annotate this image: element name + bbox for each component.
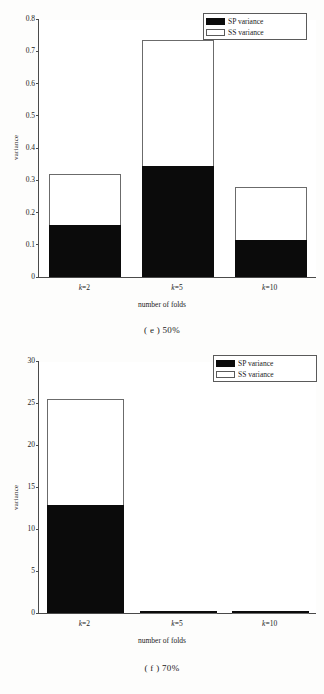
y-tick-mark bbox=[36, 115, 39, 116]
y-tick-mark bbox=[36, 613, 39, 614]
figure-caption-e: ( e ) 50% bbox=[0, 325, 324, 335]
y-tick-mark bbox=[36, 445, 39, 446]
y-tick-label: 5 bbox=[31, 566, 35, 575]
y-tick-mark bbox=[36, 487, 39, 488]
bar-segment-sp[interactable] bbox=[49, 225, 121, 277]
y-tick-label: 10 bbox=[28, 524, 36, 533]
bar-k=10[interactable] bbox=[235, 187, 307, 277]
x-tick-label: k=5 bbox=[153, 283, 201, 292]
x-tick-label: k=10 bbox=[246, 283, 294, 292]
x-axis-label-f: number of folds bbox=[0, 636, 324, 645]
legend-swatch-sp-icon bbox=[216, 360, 235, 367]
bar-k=5[interactable] bbox=[140, 612, 217, 613]
legend-swatch-sp-icon bbox=[206, 18, 225, 25]
y-axis-label-e: variance bbox=[12, 135, 20, 160]
bar-segment-sp[interactable] bbox=[235, 240, 307, 277]
y-tick-mark bbox=[36, 212, 39, 213]
y-tick-mark bbox=[36, 19, 39, 20]
legend-row-sp[interactable]: SP variance bbox=[216, 358, 314, 369]
y-tick-label: 0.5 bbox=[26, 111, 35, 120]
y-tick-mark bbox=[36, 529, 39, 530]
y-tick-label: 0 bbox=[31, 608, 35, 617]
legend-label-sp: SP variance bbox=[228, 17, 263, 26]
y-tick-mark bbox=[36, 244, 39, 245]
x-axis-label-e: number of folds bbox=[0, 300, 324, 309]
x-tick-label: k=2 bbox=[60, 619, 108, 628]
legend-row-ss[interactable]: SS variance bbox=[206, 27, 304, 38]
axes-box-f: 051015202530 bbox=[38, 362, 316, 614]
y-tick-mark bbox=[36, 403, 39, 404]
bar-k=2[interactable] bbox=[47, 399, 124, 613]
y-tick-label: 0 bbox=[31, 272, 35, 281]
y-tick-label: 0.3 bbox=[26, 175, 35, 184]
y-tick-label: 0.2 bbox=[26, 208, 35, 217]
legend-row-sp[interactable]: SP variance bbox=[206, 16, 304, 27]
legend-e[interactable]: SP variance SS variance bbox=[203, 13, 307, 40]
legend-row-ss[interactable]: SS variance bbox=[216, 369, 314, 380]
y-tick-mark bbox=[36, 180, 39, 181]
legend-label-ss: SS variance bbox=[228, 28, 264, 37]
bar-segment-sp[interactable] bbox=[47, 505, 124, 613]
y-tick-label: 0.6 bbox=[26, 79, 35, 88]
legend-f[interactable]: SP variance SS variance bbox=[213, 355, 317, 382]
y-tick-label: 15 bbox=[28, 482, 36, 491]
y-tick-mark bbox=[36, 148, 39, 149]
figure-f: variance 051015202530 k=2k=5k=10 number … bbox=[0, 350, 324, 694]
x-tick-label: k=10 bbox=[246, 619, 294, 628]
legend-swatch-ss-icon bbox=[206, 29, 225, 36]
y-tick-label: 20 bbox=[28, 440, 36, 449]
bar-segment-sp[interactable] bbox=[142, 166, 214, 277]
x-tick-label: k=5 bbox=[153, 619, 201, 628]
figure-caption-f: ( f ) 70% bbox=[0, 663, 324, 673]
bar-segment-sp[interactable] bbox=[140, 611, 217, 613]
y-tick-label: 0.8 bbox=[26, 14, 35, 23]
bar-k=10[interactable] bbox=[232, 612, 309, 613]
y-tick-mark bbox=[36, 83, 39, 84]
figure-e: variance 00.10.20.30.40.50.60.70.8 k=2k=… bbox=[0, 0, 324, 350]
bar-k=5[interactable] bbox=[142, 40, 214, 277]
legend-label-sp: SP variance bbox=[238, 359, 273, 368]
y-tick-mark bbox=[36, 571, 39, 572]
y-tick-label: 0.4 bbox=[26, 143, 35, 152]
y-tick-mark bbox=[36, 51, 39, 52]
y-tick-mark bbox=[36, 277, 39, 278]
legend-swatch-ss-icon bbox=[216, 371, 235, 378]
y-tick-label: 25 bbox=[28, 398, 36, 407]
y-tick-label: 30 bbox=[28, 356, 36, 365]
x-tick-label: k=2 bbox=[60, 283, 108, 292]
bar-k=2[interactable] bbox=[49, 174, 121, 277]
axes-box-e: 00.10.20.30.40.50.60.70.8 bbox=[38, 20, 316, 278]
legend-label-ss: SS variance bbox=[238, 370, 274, 379]
y-axis-label-f: variance bbox=[12, 485, 20, 510]
y-tick-mark bbox=[36, 361, 39, 362]
y-tick-label: 0.1 bbox=[26, 240, 35, 249]
bar-segment-sp[interactable] bbox=[232, 611, 309, 613]
figure-page: variance 00.10.20.30.40.50.60.70.8 k=2k=… bbox=[0, 0, 324, 694]
y-tick-label: 0.7 bbox=[26, 46, 35, 55]
